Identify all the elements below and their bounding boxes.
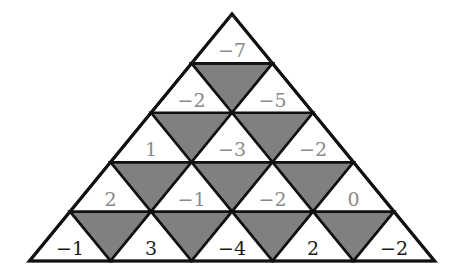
figure-root: −7−2−51−3−22−1−20−13−42−2 [0,0,457,278]
cell-label-r5-c3: −4 [218,237,246,259]
cell-label-r2-c1: −2 [177,89,205,111]
cell-label-r4-c3: −2 [258,188,286,210]
cell-label-r3-c1: 1 [145,138,157,160]
cell-label-r5-c4: 2 [307,237,319,259]
cell-label-r5-c1: −1 [56,237,84,259]
cell-label-r3-c3: −2 [299,138,327,160]
cell-label-r2-c2: −5 [258,89,286,111]
cell-label-r5-c5: −2 [380,237,408,259]
cell-label-r4-c2: −1 [177,188,205,210]
cell-label-r3-c2: −3 [218,138,246,160]
cell-label-r4-c4: 0 [347,188,359,210]
cell-label-r5-c2: 3 [145,237,157,259]
cell-label-r4-c1: 2 [104,188,116,210]
triangle-diagram: −7−2−51−3−22−1−20−13−42−2 [0,0,457,278]
cell-label-r1-c1: −7 [218,39,246,61]
